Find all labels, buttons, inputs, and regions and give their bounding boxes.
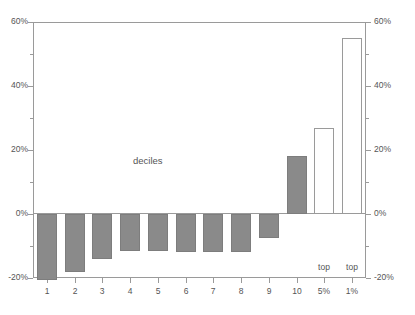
y-tick-major-left bbox=[28, 150, 33, 151]
y-axis-label-left: 20% bbox=[2, 145, 28, 154]
x-tick bbox=[186, 278, 187, 283]
x-tick bbox=[75, 278, 76, 283]
y-tick-minor-right bbox=[366, 118, 369, 119]
x-tick bbox=[269, 278, 270, 283]
bar bbox=[37, 214, 57, 280]
y-tick-major-right bbox=[366, 22, 371, 23]
x-axis-label: 3 bbox=[87, 287, 117, 296]
x-axis-label: 5 bbox=[143, 287, 173, 296]
bar bbox=[342, 38, 362, 214]
bar bbox=[148, 214, 168, 251]
y-tick-minor-right bbox=[366, 182, 369, 183]
deciles-annotation: deciles bbox=[133, 155, 163, 166]
y-axis-label-right: 0% bbox=[374, 209, 386, 218]
x-tick bbox=[241, 278, 242, 283]
y-tick-major-right bbox=[366, 86, 371, 87]
y-tick-major-left bbox=[28, 86, 33, 87]
x-tick bbox=[352, 278, 353, 283]
x-axis-label: 7 bbox=[198, 287, 228, 296]
x-tick bbox=[102, 278, 103, 283]
y-tick-major-right bbox=[366, 278, 371, 279]
x-axis-label-top: top bbox=[309, 263, 339, 272]
y-axis-label-left: 60% bbox=[2, 17, 28, 26]
y-tick-major-left bbox=[28, 278, 33, 279]
bar bbox=[92, 214, 112, 259]
x-tick bbox=[324, 278, 325, 283]
bar bbox=[231, 214, 251, 252]
x-tick bbox=[158, 278, 159, 283]
x-axis-label-top: top bbox=[337, 263, 367, 272]
y-tick-minor-right bbox=[366, 54, 369, 55]
y-tick-minor-right bbox=[366, 246, 369, 247]
y-axis-label-right: 60% bbox=[374, 17, 391, 26]
y-axis-label-left: 40% bbox=[2, 81, 28, 90]
x-axis-label: 2 bbox=[60, 287, 90, 296]
y-axis-label-right: 40% bbox=[374, 81, 391, 90]
y-tick-minor-left bbox=[30, 54, 33, 55]
y-axis-label-right: -20% bbox=[374, 273, 394, 282]
y-axis-label-left: 0% bbox=[2, 209, 28, 218]
x-axis-label: 1% bbox=[337, 287, 367, 296]
y-axis-label-right: 20% bbox=[374, 145, 391, 154]
x-tick bbox=[213, 278, 214, 283]
bar bbox=[65, 214, 85, 272]
x-axis-label: 6 bbox=[171, 287, 201, 296]
x-tick bbox=[130, 278, 131, 283]
y-axis-label-left: -20% bbox=[2, 273, 28, 282]
x-axis-label: 5% bbox=[309, 287, 339, 296]
y-tick-major-right bbox=[366, 214, 371, 215]
y-tick-major-left bbox=[28, 214, 33, 215]
y-tick-major-right bbox=[366, 150, 371, 151]
bar bbox=[314, 128, 334, 214]
x-axis-label: 9 bbox=[254, 287, 284, 296]
x-axis-label: 4 bbox=[115, 287, 145, 296]
bar bbox=[176, 214, 196, 252]
bar-chart: -20%0%20%40%60% -20%0%20%40%60% 12345678… bbox=[0, 0, 415, 315]
x-axis-label: 8 bbox=[226, 287, 256, 296]
x-tick bbox=[297, 278, 298, 283]
bar bbox=[203, 214, 223, 252]
bar bbox=[120, 214, 140, 251]
y-tick-minor-left bbox=[30, 118, 33, 119]
bar bbox=[287, 156, 307, 214]
y-tick-major-left bbox=[28, 22, 33, 23]
x-axis-label: 1 bbox=[32, 287, 62, 296]
y-tick-minor-left bbox=[30, 246, 33, 247]
x-axis-label: 10 bbox=[282, 287, 312, 296]
y-tick-minor-left bbox=[30, 182, 33, 183]
bar bbox=[259, 214, 279, 238]
